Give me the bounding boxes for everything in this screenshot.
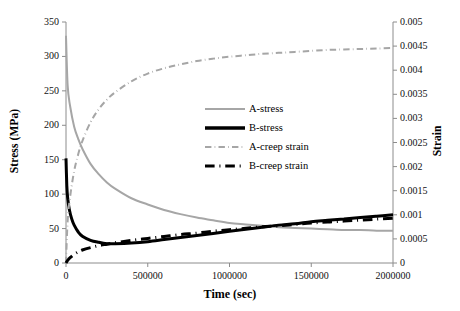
y-axis-right-tick-label: 0.005 (400, 16, 436, 27)
y-axis-right-tick-label: 0.004 (400, 64, 436, 75)
y-axis-right-tick-label: 0 (400, 257, 436, 268)
legend-label: B-creep strain (249, 160, 308, 172)
y-axis-left-tick-label: 100 (26, 188, 59, 199)
y-axis-right-tick-label: 0.001 (400, 209, 436, 220)
legend-swatch-b-stress (205, 122, 245, 134)
y-axis-right-tick-label: 0.0045 (400, 40, 436, 51)
chart-figure: Stress (MPa) Strain Time (sec) A-stressB… (0, 0, 460, 311)
x-axis-tick-label: 2000000 (353, 270, 433, 281)
y-axis-left-tick-label: 350 (26, 16, 59, 27)
y-axis-left-tick-label: 300 (26, 50, 59, 61)
legend-label: A-stress (249, 103, 283, 115)
legend-item[interactable]: A-creep strain (205, 137, 380, 156)
y-axis-left-tick-label: 250 (26, 85, 59, 96)
legend-swatch-b-creep-strain (205, 160, 245, 172)
x-axis-tick-label: 0 (26, 270, 106, 281)
x-axis-tick-label: 1000000 (190, 270, 270, 281)
legend-item[interactable]: B-stress (205, 118, 380, 137)
y-axis-right-tick-label: 0.0005 (400, 233, 436, 244)
y-axis-left-tick-label: 150 (26, 154, 59, 165)
y-axis-right-tick-label: 0.0015 (400, 185, 436, 196)
x-axis-label: Time (sec) (0, 287, 460, 302)
legend-item[interactable]: A-stress (205, 99, 380, 118)
legend-item[interactable]: B-creep strain (205, 156, 380, 175)
legend-swatch-a-creep-strain (205, 141, 245, 153)
y-axis-right-tick-label: 0.003 (400, 112, 436, 123)
y-axis-left-tick-label: 200 (26, 119, 59, 130)
y-axis-left-label: Stress (MPa) (8, 81, 20, 201)
y-axis-right-tick-label: 0.0035 (400, 88, 436, 99)
chart-legend: A-stressB-stressA-creep strainB-creep st… (205, 99, 380, 175)
y-axis-right-tick-label: 0.0025 (400, 137, 436, 148)
x-axis-tick-label: 1500000 (271, 270, 351, 281)
series-line-b-creep-strain (66, 218, 393, 263)
y-axis-right-tick-label: 0.002 (400, 161, 436, 172)
legend-label: A-creep strain (249, 141, 309, 153)
x-axis-tick-label: 500000 (108, 270, 188, 281)
legend-swatch-a-stress (205, 103, 245, 115)
legend-label: B-stress (249, 122, 283, 134)
y-axis-left-tick-label: 0 (26, 257, 59, 268)
y-axis-left-tick-label: 50 (26, 223, 59, 234)
